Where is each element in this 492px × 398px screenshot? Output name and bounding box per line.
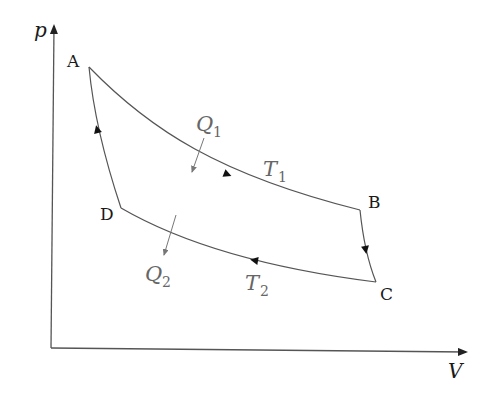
- isotherm-t1-curve: [89, 67, 360, 210]
- t1-label: T 1: [263, 157, 287, 185]
- q1-label: Q 1: [196, 112, 222, 140]
- axes: [51, 26, 466, 352]
- svg-text:Q: Q: [196, 112, 213, 136]
- arrow-da-icon: [92, 124, 102, 134]
- t2-label: T 2: [245, 271, 269, 299]
- arrow-ab-icon: [223, 169, 233, 179]
- adiabat-da-curve: [89, 67, 121, 208]
- svg-text:2: 2: [162, 274, 171, 290]
- q1-arrow: [192, 138, 204, 172]
- point-c-label: C: [380, 284, 393, 304]
- x-axis-label: V: [448, 359, 465, 383]
- v-axis: [51, 348, 466, 352]
- direction-arrows: [92, 124, 370, 265]
- cycle: [89, 67, 376, 282]
- y-axis-label: p: [34, 18, 47, 42]
- svg-text:1: 1: [278, 169, 287, 185]
- svg-text:2: 2: [260, 283, 269, 299]
- arrow-bc-icon: [361, 245, 370, 254]
- point-d-label: D: [100, 204, 114, 224]
- arrow-cd-icon: [249, 256, 258, 265]
- point-b-label: B: [368, 192, 381, 212]
- q2-arrow: [164, 215, 176, 255]
- point-a-label: A: [66, 51, 80, 71]
- svg-text:T: T: [245, 271, 261, 295]
- svg-text:T: T: [263, 157, 279, 181]
- p-axis: [51, 26, 54, 348]
- q2-label: Q 2: [145, 262, 171, 290]
- svg-text:1: 1: [213, 124, 222, 140]
- carnot-diagram: p V A B C D Q 1 T 1 Q 2 T 2: [0, 0, 492, 398]
- svg-text:Q: Q: [145, 262, 162, 286]
